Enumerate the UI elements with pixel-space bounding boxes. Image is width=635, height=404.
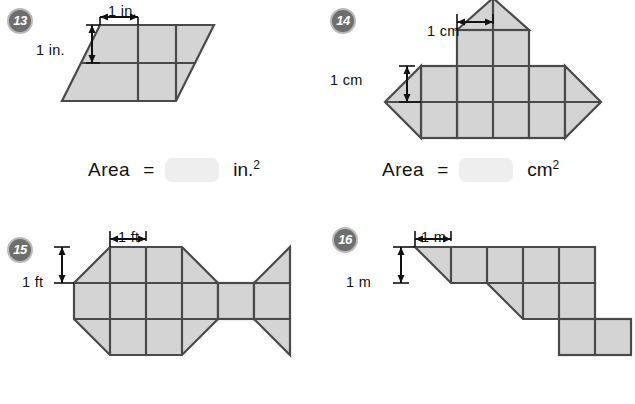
answer-label-13: Area (88, 159, 130, 181)
problem-15: 15 1 ft (0, 205, 310, 404)
figure-fish-15 (40, 225, 320, 390)
problem-number-badge-15: 15 (7, 237, 33, 263)
problem-number-badge-14: 14 (330, 8, 356, 34)
answer-input-box-14[interactable] (459, 158, 513, 182)
unit-width-label-14: 1 cm (427, 23, 460, 39)
tail-upper-triangle (254, 247, 290, 283)
answer-unit-exponent-13: 2 (253, 158, 260, 172)
figure-staircase-16 (365, 225, 635, 390)
height-dimension-arrow-16 (393, 247, 415, 283)
problem-13: 13 1 in. 1 in. Area = in (0, 0, 310, 205)
row1-shape (415, 247, 595, 283)
answer-row-14: Area = cm2 (382, 158, 559, 182)
problem-number-badge-16: 16 (332, 227, 358, 253)
tail-connector-square (218, 283, 254, 319)
tail-lower-triangle (254, 319, 290, 355)
unit-width-label-16: 1 m (421, 229, 446, 245)
row2-shape (487, 283, 595, 319)
problem-14: 14 (310, 0, 621, 205)
width-dimension-arrow-13 (100, 14, 138, 26)
answer-equals-13: = (143, 159, 154, 181)
answer-row-13: Area = in.2 (88, 158, 260, 182)
unit-height-label-16: 1 m (346, 274, 371, 290)
tail-end-square (254, 283, 290, 319)
answer-unit-text-14: cm (527, 160, 552, 181)
answer-unit-exponent-14: 2 (553, 158, 560, 172)
height-dimension-arrow-15 (54, 247, 74, 283)
unit-height-label-15: 1 ft (22, 274, 43, 290)
unit-height-label-14: 1 cm (330, 72, 363, 88)
unit-width-label-15: 1 ft (118, 229, 139, 245)
answer-unit-14: cm2 (527, 158, 559, 181)
figure-parallelogram-13 (30, 0, 280, 150)
answer-input-box-13[interactable] (165, 158, 219, 182)
problem-16: 16 1 m 1 m (310, 205, 621, 404)
answer-equals-14: = (437, 159, 448, 181)
answer-unit-13: in.2 (233, 158, 260, 181)
answer-label-14: Area (382, 159, 424, 181)
answer-unit-text-13: in. (233, 160, 253, 181)
figure-castle-14 (365, 0, 621, 150)
